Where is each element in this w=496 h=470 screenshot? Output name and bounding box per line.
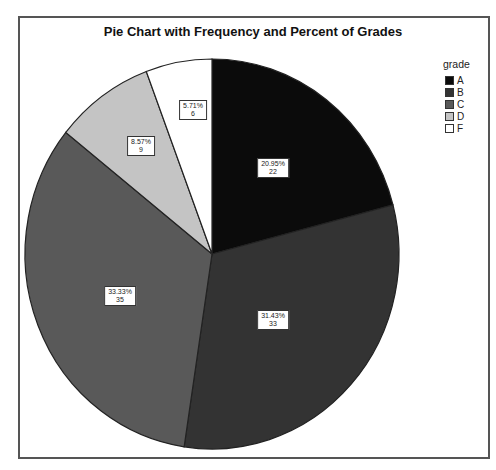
legend-item-d: D bbox=[445, 110, 470, 122]
legend-label: C bbox=[457, 99, 464, 110]
legend-label: D bbox=[457, 111, 464, 122]
legend-item-a: A bbox=[445, 74, 470, 86]
slice-label-a: 20.95%22 bbox=[257, 158, 289, 178]
legend-swatch-icon bbox=[445, 88, 454, 97]
slice-label-d: 8.57%9 bbox=[127, 136, 155, 156]
slice-label-b: 31.43%33 bbox=[257, 310, 289, 330]
legend-item-b: B bbox=[445, 86, 470, 98]
legend-swatch-icon bbox=[445, 124, 454, 133]
slice-label-f: 5.71%6 bbox=[179, 100, 207, 120]
legend-swatch-icon bbox=[445, 76, 454, 85]
pie-chart bbox=[0, 0, 496, 470]
legend-label: A bbox=[457, 75, 464, 86]
legend-item-f: F bbox=[445, 122, 470, 134]
legend-item-c: C bbox=[445, 98, 470, 110]
legend: grade ABCDF bbox=[445, 58, 470, 134]
legend-label: F bbox=[457, 123, 463, 134]
legend-label: B bbox=[457, 87, 464, 98]
legend-title: grade bbox=[443, 58, 470, 70]
legend-swatch-icon bbox=[445, 112, 454, 121]
legend-swatch-icon bbox=[445, 100, 454, 109]
slice-label-c: 33.33%35 bbox=[104, 286, 136, 306]
